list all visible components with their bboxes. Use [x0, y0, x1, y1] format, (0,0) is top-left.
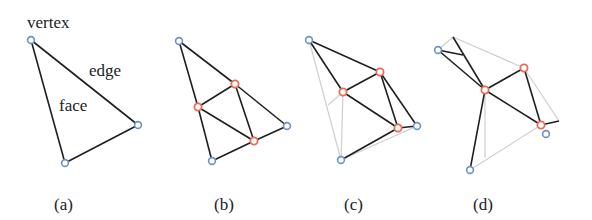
ghost-edge [453, 37, 524, 68]
edge [341, 128, 398, 160]
new-vertex-icon [537, 121, 544, 128]
edge [212, 141, 254, 161]
panel-caption-a: (a) [54, 195, 73, 214]
vertex-icon [209, 158, 216, 165]
edge [179, 41, 235, 84]
mesh-subdivision-figure: vertex edge face (a) (b) [0, 0, 592, 220]
new-vertex-icon [339, 88, 346, 95]
panel-b-original-vertices [176, 38, 291, 165]
panel-b-edges [179, 41, 287, 161]
edge-label: edge [89, 61, 121, 80]
panel-d-original-vertices [435, 47, 550, 174]
ghost-edge [524, 68, 559, 121]
new-vertex-icon [250, 137, 257, 144]
edge [470, 90, 485, 170]
panel-d: (d) [435, 37, 559, 214]
panel-b: (b) [176, 38, 291, 214]
vertex-icon [435, 47, 442, 54]
edge [380, 72, 417, 126]
edge [343, 72, 380, 92]
new-vertex-icon [520, 64, 527, 71]
vertex-icon [306, 37, 313, 44]
vertex-icon [284, 123, 291, 130]
new-vertex-icon [394, 124, 401, 131]
vertex-icon [28, 37, 35, 44]
panel-d-ghost-edges [438, 37, 559, 170]
panel-c-ghost-edges [309, 40, 417, 160]
edge [198, 107, 254, 141]
ghost-edge [309, 40, 341, 160]
face-label: face [59, 96, 87, 115]
vertex-icon [176, 38, 183, 45]
panel-a: vertex edge face (a) [27, 13, 141, 214]
vertex-icon [467, 167, 474, 174]
edge [343, 92, 398, 128]
edge [485, 68, 524, 90]
panel-caption-b: (b) [214, 195, 234, 214]
ghost-edge [470, 125, 541, 170]
edge [65, 125, 138, 163]
vertex-icon [62, 160, 69, 167]
new-vertex-icon [481, 86, 488, 93]
edge [438, 50, 485, 90]
edge [179, 41, 198, 107]
ghost-edge [341, 126, 417, 160]
new-vertex-icon [194, 103, 201, 110]
vertex-icon [543, 131, 550, 138]
edge [254, 126, 287, 141]
ghost-edge [341, 92, 343, 160]
edge [198, 84, 235, 107]
new-vertex-icon [231, 80, 238, 87]
vertex-icon [338, 157, 345, 164]
panel-caption-c: (c) [344, 195, 363, 214]
panel-c: (c) [306, 37, 421, 214]
edge [453, 37, 485, 90]
edge [380, 72, 398, 128]
panel-c-original-vertices [306, 37, 421, 164]
vertex-icon [414, 123, 421, 130]
vertex-label: vertex [27, 13, 70, 32]
vertex-icon [135, 122, 142, 129]
new-vertex-icon [376, 68, 383, 75]
panel-caption-d: (d) [473, 195, 493, 214]
